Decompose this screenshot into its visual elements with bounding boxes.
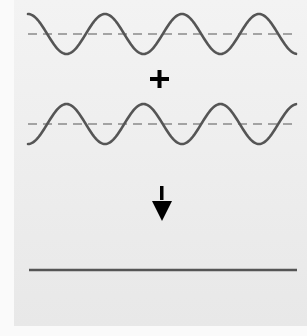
- interference-diagram: [0, 0, 307, 336]
- wave-2: [28, 104, 297, 144]
- wave-1: [28, 14, 297, 54]
- arrow-down-icon: [152, 186, 172, 221]
- plus-icon: [150, 70, 169, 88]
